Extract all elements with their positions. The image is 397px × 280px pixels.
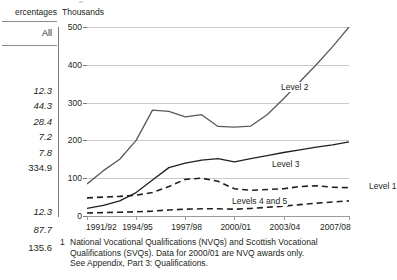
series-line-level-2 xyxy=(87,27,349,184)
left-table-column: ercentages All 12.344.328.47.27.8334.912… xyxy=(0,0,58,280)
left-column-value: 135.6 xyxy=(28,242,52,253)
footnote-text: National Vocational Qualifications (NVQs… xyxy=(70,237,370,269)
y-axis-tick-label: 300 xyxy=(58,98,82,108)
left-column-value: 334.9 xyxy=(28,162,52,173)
x-axis-tick-label: 2000/01 xyxy=(220,222,251,232)
y-axis-tick-label: 100 xyxy=(58,173,82,183)
left-column-value: 87.7 xyxy=(34,224,53,235)
left-column-units-header: ercentages xyxy=(15,7,57,17)
chart-series-lines xyxy=(87,27,350,217)
scan-artifact xyxy=(79,1,83,3)
y-axis-line xyxy=(58,27,59,217)
x-axis-tick-label: 1994/95 xyxy=(122,222,153,232)
series-line-level-1 xyxy=(87,178,349,198)
x-axis-tick-label: 1991/92 xyxy=(86,222,117,232)
y-axis-tick-label: 0 xyxy=(58,211,82,221)
x-axis-tick-label: 2007/08 xyxy=(320,222,351,232)
x-axis-tick-label: 1997/98 xyxy=(171,222,202,232)
left-column-header-all: All xyxy=(42,28,52,38)
y-axis-tick-label: 200 xyxy=(58,135,82,145)
left-column-value: 7.2 xyxy=(39,131,52,142)
x-axis-tick-label: 2003/04 xyxy=(270,222,301,232)
series-label-level-2: Level 2 xyxy=(280,82,309,92)
series-line-levels-4-and-5 xyxy=(87,201,349,213)
series-label-level-1: Level 1 xyxy=(368,181,397,191)
footnote-marker: 1 xyxy=(60,237,65,247)
y-axis-tick-label: 500 xyxy=(58,22,82,32)
left-column-value: 44.3 xyxy=(34,100,53,111)
footnote-line: National Vocational Qualifications (NVQs… xyxy=(70,237,370,248)
left-column-value: 7.8 xyxy=(39,147,52,158)
left-column-value: 12.3 xyxy=(34,85,53,96)
series-label-level-3: Level 3 xyxy=(271,159,300,169)
left-column-rule-top xyxy=(2,21,57,22)
left-column-rule-bottom xyxy=(2,45,57,46)
footnote-line: Qualifications (SVQs). Data for 2000/01 … xyxy=(70,248,370,259)
y-axis-tick-label: 400 xyxy=(58,60,82,70)
chart-units-label: Thousands xyxy=(62,7,104,17)
series-label-levels-4-and-5: Levels 4 and 5 xyxy=(231,196,288,206)
left-column-value: 28.4 xyxy=(34,116,53,127)
footnote-line: See Appendix, Part 3: Qualifications. xyxy=(70,258,370,269)
left-column-value: 12.3 xyxy=(34,206,53,217)
